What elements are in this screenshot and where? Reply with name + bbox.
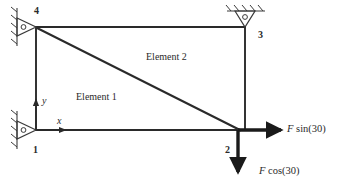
support-node-1-hatching — [11, 110, 17, 147]
support-node-4-hatching — [11, 7, 17, 44]
node-label-4: 4 — [34, 6, 39, 16]
truss-diagram: 4 3 1 2 Element 2 Element 1 y x F sin(30… — [0, 0, 340, 191]
element-1-label: Element 1 — [76, 92, 117, 102]
member-4-2-diagonal — [37, 28, 240, 130]
x-axis-label: x — [57, 116, 61, 126]
support-node-1-roller — [21, 128, 26, 133]
support-node-4-triangle — [17, 18, 36, 36]
force-horizontal-label: F sin(30) — [287, 124, 326, 135]
support-node-1-triangle — [17, 121, 36, 139]
y-axis-label: y — [42, 96, 46, 106]
support-node-4 — [11, 7, 36, 46]
node-label-2: 2 — [225, 145, 230, 155]
force-vertical-label: F cos(30) — [259, 166, 300, 177]
truss-drawing-canvas — [0, 0, 340, 191]
node-label-1: 1 — [33, 145, 38, 155]
element-2-label: Element 2 — [146, 52, 187, 62]
force-horizontal-expression: sin(30) — [293, 123, 325, 134]
support-node-4-roller — [21, 25, 26, 30]
truss-members — [36, 27, 245, 130]
support-node-3 — [226, 5, 265, 27]
support-node-3-roller — [243, 15, 248, 20]
support-node-3-hatching — [226, 5, 263, 11]
coordinate-axes — [36, 99, 66, 130]
force-vertical-expression: cos(30) — [265, 165, 299, 176]
node-label-3: 3 — [258, 30, 263, 40]
